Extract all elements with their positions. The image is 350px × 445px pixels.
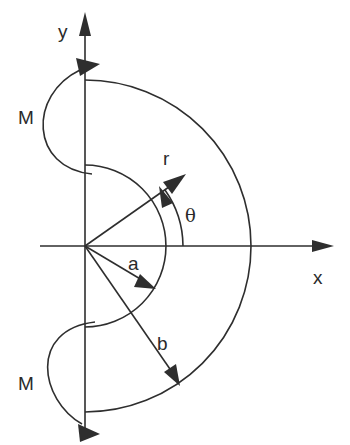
radial-r-arrow — [85, 174, 186, 246]
top-moment-arrow — [43, 58, 100, 174]
inner-radius-label: a — [128, 253, 139, 274]
theta-arc-arrow — [159, 186, 183, 246]
a-arrowhead-icon — [134, 274, 156, 289]
b-arrowhead-icon — [164, 364, 180, 386]
y-axis-arrowhead-icon — [79, 12, 91, 36]
moment-arrowhead-icon — [78, 424, 100, 442]
curved-beam-diagram: y x M M r θ a b — [0, 0, 350, 445]
moment-arrowhead-icon — [76, 58, 100, 76]
outer-radius-label: b — [157, 333, 168, 354]
x-axis-arrowhead-icon — [312, 240, 334, 252]
bottom-moment-arrow — [48, 322, 100, 442]
top-moment-label: M — [18, 107, 34, 128]
radial-label: r — [163, 148, 170, 169]
y-axis-label: y — [58, 21, 68, 42]
x-axis — [40, 240, 334, 252]
inner-radius-a-arrow — [85, 246, 156, 289]
x-axis-label: x — [313, 267, 323, 288]
theta-label: θ — [185, 205, 196, 226]
bottom-moment-label: M — [18, 373, 34, 394]
